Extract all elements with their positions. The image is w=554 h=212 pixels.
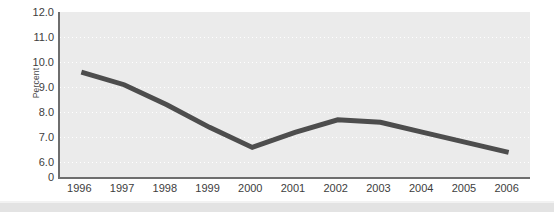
- x-tick-label: 2006: [484, 181, 530, 196]
- y-tick-label: 10.0: [20, 57, 54, 68]
- x-tick-label: 1999: [185, 181, 231, 196]
- x-axis-line: [58, 177, 530, 179]
- chart-figure: Percent 12.011.010.09.08.07.06.00 199619…: [0, 0, 554, 212]
- x-axis-tick-labels: 1996199719981999200020012002200320042005…: [58, 181, 528, 201]
- x-tick-label: 2001: [270, 181, 316, 196]
- footer-strip: [0, 203, 554, 212]
- y-tick-label: 12.0: [20, 7, 54, 18]
- x-tick-label: 2002: [313, 181, 359, 196]
- x-tick-label: 2005: [441, 181, 487, 196]
- y-tick-label: 8.0: [20, 107, 54, 118]
- y-axis-tick-labels: 12.011.010.09.08.07.06.00: [18, 0, 54, 212]
- y-tick-label: 7.0: [20, 132, 54, 143]
- y-tick-label: 11.0: [20, 32, 54, 43]
- series-line-percent: [81, 72, 508, 152]
- y-tick-label: 9.0: [20, 82, 54, 93]
- x-tick-label: 2003: [355, 181, 401, 196]
- y-tick-label: 0: [20, 172, 54, 183]
- plot-inner: [60, 12, 530, 177]
- y-tick-label: 6.0: [20, 157, 54, 168]
- x-tick-label: 2000: [227, 181, 273, 196]
- x-tick-label: 1997: [99, 181, 145, 196]
- x-tick-label: 1998: [142, 181, 188, 196]
- x-tick-label: 2004: [398, 181, 444, 196]
- x-tick-label: 1996: [56, 181, 102, 196]
- line-series: [60, 12, 530, 177]
- plot-area: [58, 12, 530, 177]
